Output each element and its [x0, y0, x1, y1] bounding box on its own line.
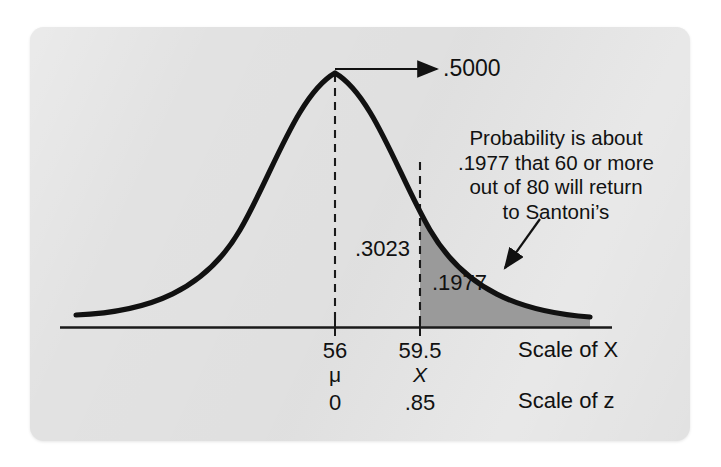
mean-z-label: 0: [295, 390, 375, 416]
annotation-line-1: Probability is about: [432, 126, 680, 151]
half-area-label: .5000: [443, 57, 501, 80]
arrow-diagonal-icon: [505, 219, 540, 268]
mid-area-label: .3023: [355, 238, 410, 260]
scale-of-x-label: Scale of X: [518, 339, 618, 361]
cutoff-symbol-label: X: [378, 363, 462, 387]
mean-symbol-label: μ: [295, 363, 375, 387]
scale-of-z-label: Scale of z: [518, 390, 615, 412]
annotation-line-4: to Santoni’s: [432, 200, 680, 225]
probability-annotation: Probability is about .1977 that 60 or mo…: [432, 126, 680, 224]
annotation-line-3: out of 80 will return: [432, 175, 680, 200]
figure-root: .5000 Probability is about .1977 that 60…: [0, 0, 721, 467]
tail-area-label: .1977: [432, 272, 487, 294]
cutoff-z-label: .85: [378, 390, 462, 416]
cutoff-value-label: 59.5: [378, 338, 462, 364]
mean-value-label: 56: [295, 338, 375, 364]
annotation-line-2: .1977 that 60 or more: [432, 151, 680, 176]
